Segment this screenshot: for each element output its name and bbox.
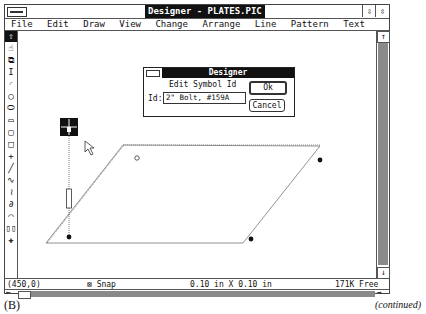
tool-cross-line[interactable]: + [5, 151, 17, 162]
menu-bar: File Edit Draw View Change Arrange Line … [5, 19, 389, 31]
tool-text[interactable]: I [5, 67, 17, 78]
menu-pattern[interactable]: Pattern [291, 19, 329, 29]
arrow-down-icon: ↓ [381, 268, 386, 277]
plate-parallelogram [46, 145, 320, 243]
ok-button[interactable]: Ok [249, 81, 287, 95]
line-icon: ╱ [8, 163, 13, 173]
scroll-left-button[interactable]: ← [6, 288, 11, 297]
menu-change[interactable]: Change [155, 19, 188, 29]
snap-label: Snap [97, 280, 116, 289]
dialog-heading: Edit Symbol Id [169, 80, 236, 89]
curve-icon: ∿ [7, 175, 15, 185]
arrow-right-icon: → [377, 288, 382, 297]
cross-icon: + [8, 151, 13, 161]
menu-edit[interactable]: Edit [47, 19, 69, 29]
arrow-up-icon: ⇧ [8, 31, 13, 41]
toolbox: ⇧ ☝ ⧉ I ◜ ○ ⬭ ▭ ▢ □ + ╱ ∿ ≀ ∂ ⌒ ▯▯ ✚ [5, 31, 18, 278]
tool-select-arrow[interactable]: ⇧ [5, 31, 17, 42]
menu-file[interactable]: File [11, 19, 33, 29]
bolt-hole[interactable] [249, 237, 254, 242]
title-bar: Designer - PLATES.PIC ⇩ ⇳ [5, 5, 389, 19]
mouse-pointer-icon [85, 141, 94, 155]
edit-symbol-dialog: Designer Edit Symbol Id Id: 2" Bolt, #15… [143, 67, 295, 117]
polygon-icon: ⌒ [8, 211, 13, 221]
tool-circle[interactable]: ○ [5, 91, 17, 102]
tool-symbol[interactable]: ✚ [5, 235, 17, 246]
arrow-left-icon: ← [6, 288, 11, 297]
dialog-title: Designer [162, 68, 294, 78]
figure-label: (B) [4, 298, 20, 313]
tool-curve[interactable]: ∿ [5, 175, 17, 186]
bolt-hole[interactable] [67, 235, 72, 240]
tool-rectangle[interactable]: ▭ [5, 115, 17, 126]
zoom-box-icon: ⧉ [8, 55, 14, 65]
checkbox-checked-icon: ⊠ [87, 280, 92, 289]
id-label: Id: [148, 94, 162, 103]
horizontal-scroll-track[interactable] [31, 291, 375, 297]
tool-polygon[interactable]: ⌒ [5, 211, 17, 222]
designer-window: Designer - PLATES.PIC ⇩ ⇳ File Edit Draw… [4, 4, 390, 294]
arrow-up-icon: ↑ [381, 32, 386, 41]
scroll-right-button[interactable]: → [377, 288, 382, 297]
text-cursor-icon: I [8, 67, 13, 77]
maximize-button[interactable]: ⇳ [375, 5, 389, 17]
tool-square[interactable]: □ [5, 139, 17, 150]
menu-arrange[interactable]: Arrange [202, 19, 240, 29]
circle-icon: ○ [8, 91, 13, 101]
tool-columns[interactable]: ▯▯ [5, 223, 17, 234]
continued-note: (continued) [375, 299, 421, 310]
arc-icon: ◜ [8, 79, 13, 89]
columns-icon: ▯▯ [6, 223, 17, 233]
rectangle-icon: ▭ [8, 115, 13, 125]
restore-arrows-icon: ⇳ [380, 6, 385, 16]
symbol-id-input[interactable]: 2" Bolt, #159A [163, 92, 246, 104]
tool-zoom-box[interactable]: ⧉ [5, 55, 17, 66]
ellipse-icon: ⬭ [7, 103, 15, 113]
tool-hand[interactable]: ☝ [5, 43, 17, 54]
down-arrow-icon: ⇩ [367, 6, 372, 16]
hand-icon: ☝ [8, 43, 13, 53]
menu-text[interactable]: Text [343, 19, 365, 29]
window-title: Designer - PLATES.PIC [145, 5, 265, 18]
rounded-rectangle-icon: ▢ [8, 127, 13, 137]
bolt-hole-open[interactable] [135, 156, 139, 160]
freehand-icon: ∂ [8, 199, 13, 209]
minimize-button[interactable]: ⇩ [362, 5, 376, 17]
tool-ellipse[interactable]: ⬭ [5, 103, 17, 114]
horizontal-scrollbar[interactable]: ← → [5, 289, 389, 298]
bolt-body [67, 189, 72, 208]
system-menu-button[interactable] [7, 7, 27, 17]
vertical-scrollbar[interactable]: ↑ ↓ [376, 31, 389, 278]
cancel-button[interactable]: Cancel [249, 99, 285, 112]
vertical-scroll-track[interactable] [378, 43, 388, 265]
menu-view[interactable]: View [119, 19, 141, 29]
tool-arc[interactable]: ◜ [5, 79, 17, 90]
tool-rounded-rectangle[interactable]: ▢ [5, 127, 17, 138]
scroll-up-button[interactable]: ↑ [377, 31, 390, 43]
tool-line[interactable]: ╱ [5, 163, 17, 174]
symbol-icon: ✚ [8, 235, 13, 245]
menu-line[interactable]: Line [255, 19, 277, 29]
tool-freehand-curve[interactable]: ≀ [5, 187, 17, 198]
dialog-system-menu[interactable] [146, 70, 160, 77]
menu-draw[interactable]: Draw [83, 19, 105, 29]
tool-freehand[interactable]: ∂ [5, 199, 17, 210]
square-icon: □ [8, 139, 13, 149]
freehand-curve-icon: ≀ [10, 187, 13, 197]
bolt-hole[interactable] [318, 158, 323, 163]
selection-edge [47, 145, 124, 243]
